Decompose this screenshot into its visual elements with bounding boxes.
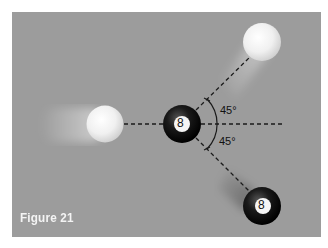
- lower-angle-label: 45°: [219, 135, 236, 147]
- cue-ball-deflected: [243, 23, 281, 61]
- eight-ball-deflected-number: 8: [258, 198, 265, 212]
- upper-angle-label: 45°: [220, 104, 237, 116]
- eight-ball-center-number: 8: [177, 116, 184, 130]
- figure-caption: Figure 21: [20, 210, 74, 225]
- trajectory-lines: [124, 55, 284, 192]
- cue-ball-incoming: [87, 106, 124, 143]
